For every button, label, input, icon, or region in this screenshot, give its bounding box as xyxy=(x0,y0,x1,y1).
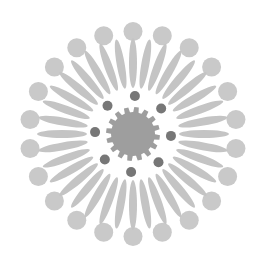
outer-dot xyxy=(21,139,40,158)
inner-dot xyxy=(156,104,166,114)
petal xyxy=(179,130,229,138)
outer-dot xyxy=(67,38,86,57)
inner-dot xyxy=(130,91,140,101)
inner-dot xyxy=(103,101,113,111)
outer-dot xyxy=(29,167,48,186)
outer-dot xyxy=(218,82,237,101)
outer-dot xyxy=(180,211,199,230)
outer-dot xyxy=(67,211,86,230)
outer-dot xyxy=(94,26,113,45)
outer-dot xyxy=(226,110,245,129)
outer-dot xyxy=(29,82,48,101)
outer-dot xyxy=(218,167,237,186)
outer-dot xyxy=(153,26,172,45)
inner-dot xyxy=(90,127,100,137)
inner-dot xyxy=(126,167,136,177)
inner-dot xyxy=(100,154,110,164)
outer-dot xyxy=(21,110,40,129)
outer-dot xyxy=(180,38,199,57)
sunburst-emblem-icon xyxy=(0,0,263,256)
core-gear xyxy=(106,107,160,161)
outer-dot xyxy=(94,223,113,242)
inner-dot xyxy=(153,157,163,167)
outer-dot xyxy=(226,139,245,158)
core-disc xyxy=(111,112,155,156)
petal xyxy=(129,180,137,230)
outer-dot xyxy=(153,223,172,242)
petal xyxy=(37,130,87,138)
petal xyxy=(129,38,137,88)
inner-dot xyxy=(166,131,176,141)
